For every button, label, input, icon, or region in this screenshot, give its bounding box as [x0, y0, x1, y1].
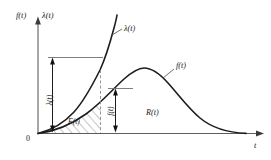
- x-axis-arrowhead: [256, 131, 264, 137]
- y-axis-label-lambda: λ(t): [41, 11, 54, 20]
- cdf-region-label: F(t): [67, 117, 80, 126]
- density-value-label: f(t): [106, 106, 115, 116]
- lambda-curve-label: λ(t): [123, 24, 136, 33]
- reliability-function-diagram: f(t) λ(t) 0 t λ(t) f(t) F(t) R(t): [0, 0, 271, 160]
- lambda-value-label: λ(t): [45, 94, 54, 106]
- x-axis-label-t: t: [254, 141, 257, 150]
- origin-label: 0: [26, 134, 30, 143]
- reliability-region-label: R(t): [145, 108, 159, 117]
- figure-container: f(t) λ(t) 0 t λ(t) f(t) F(t) R(t): [0, 0, 271, 160]
- density-curve-leader: [163, 69, 174, 78]
- y-axis-arrowhead: [35, 17, 41, 25]
- density-curve-label: f(t): [176, 61, 186, 70]
- y-axis-label-f: f(t): [16, 11, 26, 20]
